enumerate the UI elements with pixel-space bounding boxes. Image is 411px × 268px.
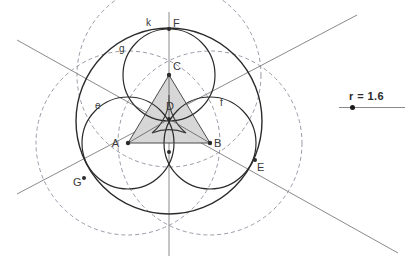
point-label-a: A	[112, 137, 120, 149]
point-dot-d[interactable]	[167, 117, 171, 121]
point-label-g: G	[73, 176, 82, 188]
point-label-b: B	[214, 137, 221, 149]
geogebra-canvas: A B C D E F G k g e f r = 1.6	[0, 0, 411, 268]
geometry-figure: A B C D E F G k g e f	[0, 0, 411, 268]
point-label-e: E	[257, 161, 264, 173]
point-label-f: F	[173, 17, 180, 29]
point-label-c: C	[173, 60, 181, 72]
point-dot-g[interactable]	[82, 176, 86, 180]
diagonal-down-right-line	[17, 40, 398, 253]
radius-slider[interactable]: r = 1.6	[339, 90, 405, 111]
point-dot-c[interactable]	[167, 73, 171, 77]
point-label-d: D	[166, 100, 174, 112]
point-dot-b[interactable]	[208, 141, 212, 145]
point-dot-bottom[interactable]	[167, 150, 171, 154]
object-label-f: f	[220, 97, 223, 108]
object-label-k: k	[146, 17, 152, 28]
construction-line-group	[17, 12, 398, 256]
radius-slider-track[interactable]	[339, 104, 405, 111]
object-label-e: e	[95, 100, 101, 111]
point-dot-f[interactable]	[167, 27, 171, 31]
point-dot-a[interactable]	[126, 141, 130, 145]
object-label-g: g	[119, 43, 125, 54]
radius-slider-label: r = 1.6	[349, 90, 384, 102]
radius-slider-knob[interactable]	[350, 105, 355, 110]
radius-slider-line	[339, 107, 405, 108]
